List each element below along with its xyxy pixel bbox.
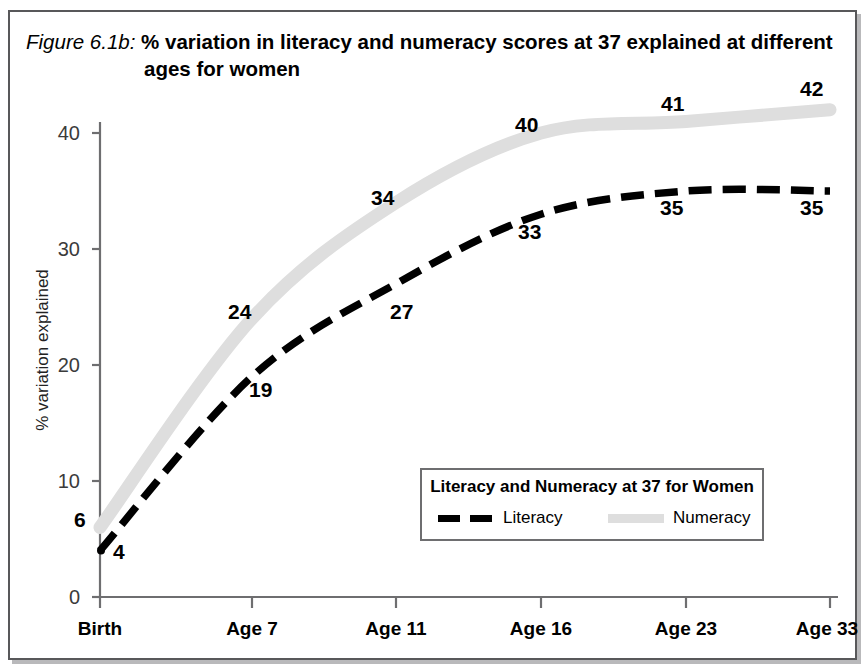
- ytick-label-0: 0: [34, 586, 80, 609]
- point-label-literacy-birth: 4: [113, 540, 125, 564]
- point-label-numeracy-age-11: 34: [371, 186, 394, 210]
- chart-canvas: [0, 0, 865, 672]
- literacy-start-marker: [97, 547, 105, 555]
- point-label-numeracy-age-7: 24: [228, 300, 251, 324]
- x-tick-marks: [100, 597, 830, 608]
- point-label-literacy-age-7: 19: [249, 378, 272, 402]
- series-line-numeracy: [100, 110, 830, 528]
- point-label-numeracy-birth: 6: [74, 508, 86, 532]
- xtick-label-age-23: Age 23: [631, 618, 741, 640]
- legend-entry-numeracy[interactable]: Numeracy: [608, 508, 750, 528]
- legend-label-numeracy: Numeracy: [673, 508, 750, 528]
- legend-label-literacy: Literacy: [503, 508, 563, 528]
- xtick-label-age-11: Age 11: [341, 618, 451, 640]
- point-label-literacy-age-16: 33: [518, 220, 541, 244]
- point-label-literacy-age-11: 27: [390, 300, 413, 324]
- ytick-label-40: 40: [34, 122, 80, 145]
- figure-container: Figure 6.1b: % variation in literacy and…: [0, 0, 865, 672]
- point-label-numeracy-age-16: 40: [515, 113, 538, 137]
- plot-area: 0 10 20 30 40 % variation explained Birt…: [0, 0, 865, 672]
- legend-entry-literacy[interactable]: Literacy: [438, 508, 563, 528]
- legend-swatch-literacy-icon: [438, 515, 494, 522]
- xtick-label-age-7: Age 7: [197, 618, 307, 640]
- xtick-label-age-33: Age 33: [772, 618, 865, 640]
- legend-title: Literacy and Numeracy at 37 for Women: [422, 477, 762, 497]
- point-label-numeracy-age-23: 41: [661, 92, 684, 116]
- xtick-label-birth: Birth: [45, 618, 155, 640]
- ytick-label-10: 10: [34, 470, 80, 493]
- point-label-numeracy-age-33: 42: [800, 77, 823, 101]
- xtick-label-age-16: Age 16: [486, 618, 596, 640]
- point-label-literacy-age-23: 35: [660, 196, 683, 220]
- y-axis-label: % variation explained: [33, 250, 53, 450]
- legend-swatch-numeracy-icon: [608, 514, 664, 523]
- point-label-literacy-age-33: 35: [800, 196, 823, 220]
- chart-legend: Literacy and Numeracy at 37 for Women Li…: [420, 468, 764, 541]
